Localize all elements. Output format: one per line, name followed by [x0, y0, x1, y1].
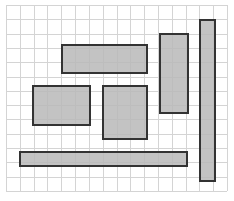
rect-middle — [103, 86, 147, 139]
rect-far-right-bar — [200, 20, 215, 181]
grid-diagram-canvas — [0, 0, 234, 201]
grid-diagram — [0, 0, 234, 201]
rect-right-tall — [160, 34, 188, 113]
rect-bottom-long — [20, 152, 187, 166]
rectangles — [20, 20, 215, 181]
rect-left-square — [33, 86, 90, 125]
rect-top-horizontal — [62, 45, 147, 73]
